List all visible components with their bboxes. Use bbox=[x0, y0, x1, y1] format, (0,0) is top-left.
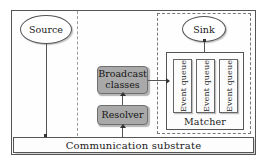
node-communication-substrate-label: Communication substrate bbox=[66, 140, 202, 151]
node-event-queue: Event queue bbox=[196, 59, 215, 113]
edge-source-endpoint-dot bbox=[44, 134, 47, 137]
edge-sink-to-matcher bbox=[204, 41, 205, 53]
node-source-label: Source bbox=[29, 24, 63, 35]
node-event-queue: Event queue bbox=[173, 59, 192, 113]
node-event-queue: Event queue bbox=[219, 59, 238, 113]
node-broadcast-classes-label: Broadcast classes bbox=[98, 69, 147, 91]
event-queue-label: Event queue bbox=[201, 60, 210, 112]
node-source: Source bbox=[20, 15, 72, 44]
arrowhead-right-icon bbox=[166, 78, 170, 84]
arrowhead-up-icon bbox=[120, 92, 126, 96]
node-broadcast-classes: Broadcast classes bbox=[97, 66, 148, 94]
node-resolver: Resolver bbox=[97, 105, 148, 125]
node-resolver-label: Resolver bbox=[102, 110, 144, 121]
edge-sink-endpoint-dot bbox=[203, 39, 206, 42]
architecture-diagram: Source Sink Event queue Event queue Even… bbox=[0, 0, 267, 165]
event-queue-label: Event queue bbox=[178, 60, 187, 112]
arrowhead-up-icon bbox=[120, 124, 126, 128]
node-sink-label: Sink bbox=[193, 24, 214, 35]
event-queue-label: Event queue bbox=[224, 60, 233, 112]
source-region-divider bbox=[77, 11, 78, 136]
edge-broadcast-classes-to-event-queue bbox=[148, 80, 168, 81]
node-communication-substrate: Communication substrate bbox=[13, 137, 254, 153]
node-matcher: Event queue Event queue Event queue Matc… bbox=[166, 52, 244, 130]
node-matcher-label: Matcher bbox=[167, 116, 243, 127]
edge-source-to-substrate bbox=[46, 43, 47, 137]
